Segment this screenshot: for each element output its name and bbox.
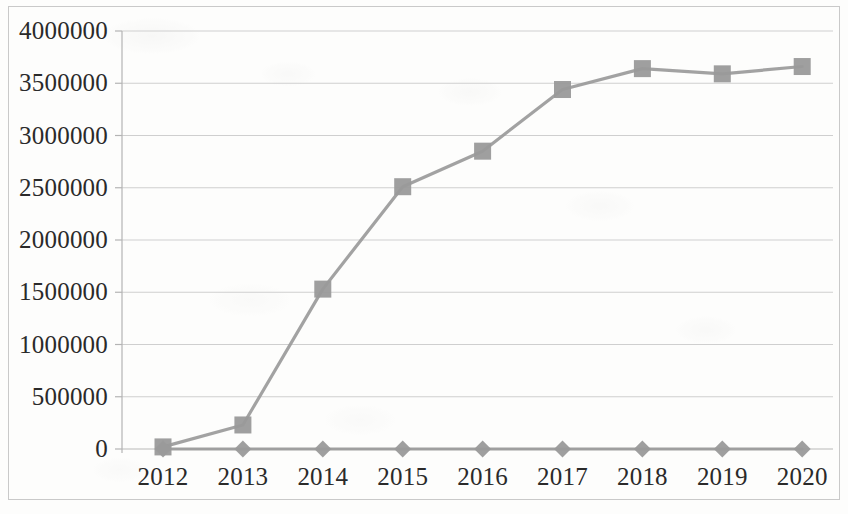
x-axis-tick-label: 2018: [597, 464, 687, 489]
chart-figure: 0500000100000015000002000000250000030000…: [0, 0, 848, 514]
x-axis-tick-label: 2016: [438, 464, 528, 489]
x-axis-tick-label: 2013: [198, 464, 288, 489]
x-axis-tick-label: 2014: [278, 464, 368, 489]
x-axis-tick-label: 2017: [518, 464, 608, 489]
x-axis-tick-label: 2019: [677, 464, 767, 489]
x-axis-tick-label: 2012: [118, 464, 208, 489]
x-axis-tick-label: 2020: [757, 464, 847, 489]
x-axis-tick-label: 2015: [358, 464, 448, 489]
x-axis-tick-labels: 201220132014201520162017201820192020: [0, 0, 848, 514]
